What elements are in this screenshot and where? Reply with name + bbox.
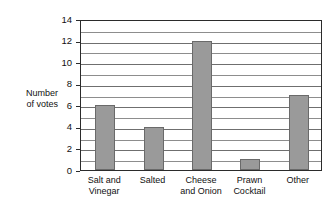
plot-area [80,20,322,171]
bar [144,127,164,170]
bar [240,159,260,170]
y-axis-tick-label: 10 [50,58,72,68]
y-axis-tick-label: 0 [50,166,72,176]
y-axis-tick-label: 6 [50,101,72,111]
bar [95,105,115,170]
y-axis-tick-label: 4 [50,122,72,132]
bar-chart: Number of votes 02468101214 Salt and Vin… [0,0,335,210]
y-axis-tick-label: 12 [50,36,72,46]
x-axis-category-label: Other [265,175,331,186]
y-axis-tick-mark [76,171,80,172]
y-axis-tick-label: 2 [50,144,72,154]
y-axis-tick-label: 8 [50,79,72,89]
y-axis-tick-label: 14 [50,15,72,25]
bar [289,95,309,171]
bar [192,41,212,170]
bar-group [81,21,321,170]
